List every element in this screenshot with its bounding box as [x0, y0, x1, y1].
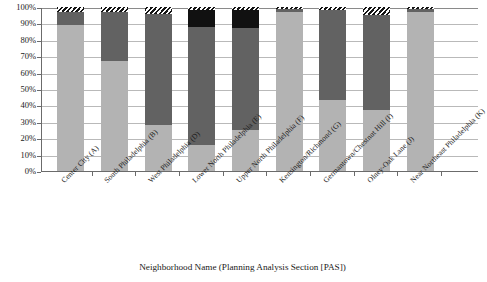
bar-segment-series-1-light-gray	[276, 12, 303, 171]
bar-segment-series-4-hatched	[188, 7, 215, 10]
x-axis-tick	[354, 172, 355, 176]
plot-area	[41, 8, 478, 172]
bar-segment-series-3-black	[188, 10, 215, 26]
bar-segment-series-2-dark-gray	[319, 10, 346, 100]
y-axis-tick-label: 70%	[20, 52, 36, 61]
bar-group[interactable]	[319, 7, 346, 171]
bar-segment-series-2-dark-gray	[101, 12, 128, 61]
bar-segment-series-4-hatched	[57, 7, 84, 12]
x-axis-tick	[179, 172, 180, 176]
y-axis-tick-label: 50%	[20, 85, 36, 94]
x-axis-tick	[441, 172, 442, 176]
bar-segment-series-4-hatched	[145, 7, 172, 14]
bar-group[interactable]	[407, 7, 434, 171]
bar-segment-series-4-hatched	[363, 7, 390, 15]
bar-segment-series-2-dark-gray	[188, 27, 215, 145]
bar-group[interactable]	[363, 7, 390, 171]
bar-segment-series-1-light-gray	[188, 145, 215, 171]
x-axis-tick	[310, 172, 311, 176]
bar-segment-series-4-hatched	[319, 7, 346, 10]
y-axis-tick-label: 80%	[20, 36, 36, 45]
bar-group[interactable]	[101, 7, 128, 171]
bar-segment-series-4-hatched	[407, 7, 434, 9]
bar-segment-series-3-black	[232, 10, 259, 28]
y-axis: 100%90%80%70%60%50%40%30%20%10%0%	[0, 0, 41, 180]
bar-group[interactable]	[276, 7, 303, 171]
x-axis-title: Neighborhood Name (Planning Analysis Sec…	[0, 262, 485, 272]
bar-segment-series-1-light-gray	[57, 25, 84, 171]
bar-group[interactable]	[232, 7, 259, 171]
bar-segment-series-2-dark-gray	[57, 12, 84, 25]
y-axis-tick	[37, 172, 41, 173]
bar-segment-series-1-light-gray	[101, 61, 128, 171]
bar-segment-series-1-light-gray	[319, 100, 346, 171]
bar-group[interactable]	[145, 7, 172, 171]
y-axis-tick-label: 0%	[25, 167, 36, 176]
x-axis-tick	[397, 172, 398, 176]
x-axis-tick	[223, 172, 224, 176]
bar-group[interactable]	[188, 7, 215, 171]
y-axis-tick-label: 40%	[20, 101, 36, 110]
bar-segment-series-2-dark-gray	[276, 9, 303, 12]
bar-group[interactable]	[57, 7, 84, 171]
bar-segment-series-4-hatched	[232, 7, 259, 10]
x-axis-tick	[266, 172, 267, 176]
bar-segment-series-2-dark-gray	[232, 28, 259, 130]
bars-layer	[42, 8, 478, 171]
bar-segment-series-4-hatched	[101, 7, 128, 12]
bar-segment-series-2-dark-gray	[145, 14, 172, 126]
x-axis-tick	[135, 172, 136, 176]
bar-segment-series-2-dark-gray	[363, 15, 390, 110]
x-axis-tick	[92, 172, 93, 176]
y-axis-tick-label: 20%	[20, 134, 36, 143]
bar-segment-series-1-light-gray	[145, 125, 172, 171]
bar-segment-series-1-light-gray	[363, 110, 390, 171]
y-axis-tick-label: 100%	[16, 3, 36, 12]
bar-segment-series-4-hatched	[276, 7, 303, 9]
y-axis-tick-label: 90%	[20, 19, 36, 28]
y-axis-tick-label: 10%	[20, 151, 36, 160]
bar-segment-series-2-dark-gray	[407, 9, 434, 12]
bar-segment-series-1-light-gray	[232, 130, 259, 171]
bar-segment-series-1-light-gray	[407, 12, 434, 171]
y-axis-tick-label: 30%	[20, 118, 36, 127]
y-axis-tick-label: 60%	[20, 69, 36, 78]
